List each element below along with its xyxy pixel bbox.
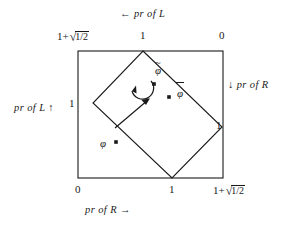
label-phi-tilde: ~φ	[155, 65, 161, 76]
tick-top-left-radicand: 1/2	[75, 31, 89, 42]
tick-top-right: 0	[219, 30, 225, 41]
translation-arrow-shaft	[115, 100, 148, 128]
phi-tilde-glyph: ~φ	[155, 65, 161, 76]
tick-top-left-base: 1+	[57, 30, 69, 42]
point-phi-bar	[167, 95, 171, 99]
phi-bar-symbol: φ	[177, 87, 183, 99]
tick-bottom-left: 0	[75, 184, 81, 195]
tick-top-left: 1+√1/2	[57, 30, 89, 42]
tick-bottom-middle: 1	[169, 184, 175, 195]
outer-square	[78, 51, 223, 178]
macron-accent-icon	[176, 82, 184, 83]
diagram-canvas: ← pr of L pr of L ↑ ↓ pr of R pr of R → …	[0, 0, 297, 230]
tick-bottom-right-radicand: 1/2	[231, 185, 245, 196]
tick-top-left-radical: √1/2	[69, 30, 89, 42]
tick-left-upper: 1	[69, 98, 75, 109]
label-phi-bar: φ	[177, 88, 183, 99]
tick-top-middle: 1	[140, 30, 146, 41]
label-phi: φ	[100, 138, 106, 149]
axis-label-top: ← pr of L	[120, 9, 165, 20]
point-phi	[114, 140, 118, 144]
phi-symbol: φ	[100, 137, 106, 149]
figure-svg	[0, 0, 297, 230]
tick-right-lower: 1	[216, 120, 222, 131]
axis-label-right: ↓ pr of R	[228, 80, 269, 91]
axis-label-left: pr of L ↑	[14, 103, 54, 114]
tilde-accent-icon: ~	[155, 58, 160, 68]
tick-bottom-right-radical: √1/2	[225, 184, 245, 196]
phi-bar-glyph: φ	[177, 88, 183, 99]
axis-label-bottom: pr of R →	[85, 205, 131, 216]
tick-bottom-right-base: 1+	[213, 184, 225, 196]
tick-bottom-right: 1+√1/2	[213, 184, 245, 196]
